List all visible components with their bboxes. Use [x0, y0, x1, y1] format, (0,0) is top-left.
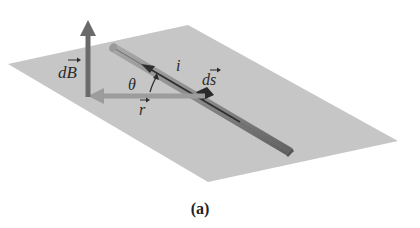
biot-savart-diagram: dB θ i ds r (a)	[0, 0, 420, 228]
figure-caption: (a)	[191, 200, 210, 218]
svg-text:ds: ds	[202, 71, 216, 88]
svg-text:dB: dB	[58, 63, 78, 82]
label-current: i	[176, 57, 180, 74]
svg-text:r: r	[139, 101, 146, 118]
label-theta: θ	[128, 76, 136, 93]
